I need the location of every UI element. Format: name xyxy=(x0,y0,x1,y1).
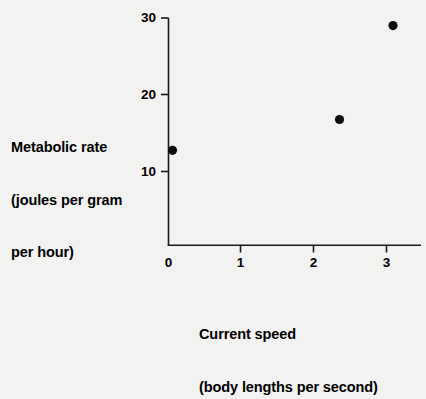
data-point xyxy=(335,115,344,124)
y-tick-label-30: 30 xyxy=(126,10,156,25)
x-axis-title-line-2: (body lengths per second) xyxy=(199,379,378,397)
y-axis-title-line-1: Metabolic rate xyxy=(11,139,122,157)
x-axis-title: Current speed (body lengths per second) xyxy=(199,291,378,399)
y-axis-title: Metabolic rate (joules per gram per hour… xyxy=(11,104,122,297)
x-tick-label-2: 2 xyxy=(304,255,324,270)
y-axis-title-line-2: (joules per gram xyxy=(11,192,122,210)
y-tick-label-10: 10 xyxy=(126,164,156,179)
y-tick-label-20: 20 xyxy=(126,87,156,102)
data-point xyxy=(168,146,177,155)
data-point xyxy=(388,21,397,30)
x-tick-label-0: 0 xyxy=(159,255,179,270)
x-tick-label-3: 3 xyxy=(377,255,397,270)
x-axis-title-line-1: Current speed xyxy=(199,326,378,344)
y-axis-title-line-3: per hour) xyxy=(11,244,122,262)
x-tick-label-1: 1 xyxy=(231,255,251,270)
